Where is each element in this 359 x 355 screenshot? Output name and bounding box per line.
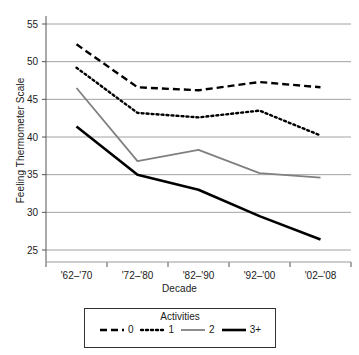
legend-label: 2 xyxy=(209,324,215,335)
series-line-3plus xyxy=(77,126,321,239)
legend-title: Activities xyxy=(85,311,275,322)
legend-item-0[interactable]: 0 xyxy=(97,324,136,335)
x-tick-label: '62–'70 xyxy=(61,270,93,281)
series-line-1 xyxy=(77,68,321,136)
y-axis-ticks: 25303540455055 xyxy=(27,19,46,256)
dashed-line-swatch xyxy=(99,325,125,335)
legend-label: 0 xyxy=(128,324,134,335)
y-tick-label: 25 xyxy=(27,245,39,256)
legend: Activities 0123+ xyxy=(84,308,276,348)
black-solid-line-swatch xyxy=(221,325,247,335)
dotted-line-swatch xyxy=(140,325,166,335)
y-tick-label: 55 xyxy=(27,19,39,30)
y-tick-label: 40 xyxy=(27,132,39,143)
legend-items: 0123+ xyxy=(85,324,275,335)
y-tick-label: 50 xyxy=(27,56,39,67)
plot-area: 25303540455055 '62–'70'72–'80'82–'90'92–… xyxy=(0,0,359,355)
series-line-2 xyxy=(77,88,321,178)
line-chart: 25303540455055 '62–'70'72–'80'82–'90'92–… xyxy=(0,0,359,355)
x-tick-label: '82–'90 xyxy=(183,270,215,281)
y-axis-title: Feeling Thermometer Scale xyxy=(15,41,26,241)
legend-item-1[interactable]: 1 xyxy=(138,324,177,335)
data-series xyxy=(77,44,321,239)
y-tick-label: 30 xyxy=(27,207,39,218)
gray-solid-line-swatch xyxy=(180,325,206,335)
legend-item-3plus[interactable]: 3+ xyxy=(219,324,263,335)
legend-label: 1 xyxy=(169,324,175,335)
x-axis-ticks: '62–'70'72–'80'82–'90'92–'00'02–'08 xyxy=(46,262,351,281)
legend-item-2[interactable]: 2 xyxy=(178,324,217,335)
x-tick-label: '02–'08 xyxy=(305,270,337,281)
legend-label: 3+ xyxy=(250,324,261,335)
x-tick-label: '92–'00 xyxy=(244,270,276,281)
x-tick-label: '72–'80 xyxy=(122,270,154,281)
series-line-0 xyxy=(77,44,321,90)
y-tick-label: 35 xyxy=(27,169,39,180)
x-axis-title: Decade xyxy=(0,283,359,294)
y-tick-label: 45 xyxy=(27,94,39,105)
